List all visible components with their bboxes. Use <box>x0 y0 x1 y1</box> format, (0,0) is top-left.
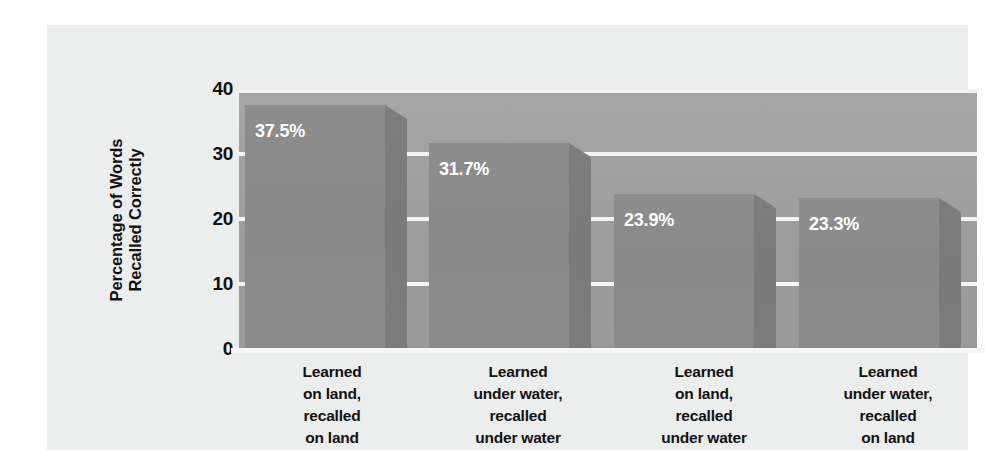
x-label-3-line-2: recalled <box>795 405 981 427</box>
x-label-0-line-0: Learned <box>239 361 425 383</box>
bar-learned-on-land-recalled-on-land[interactable]: 37.5% <box>245 105 385 349</box>
bar-learned-under-water-recalled-under-water[interactable]: 31.7% <box>429 143 569 349</box>
x-label-2-line-0: Learned <box>611 361 797 383</box>
y-axis-tick-labels: 40 30 20 10 0 <box>185 25 233 470</box>
bar-learned-on-land-recalled-under-water[interactable]: 23.9% <box>614 194 754 349</box>
axis-line-zero <box>231 348 985 353</box>
y-tick-40: 40 <box>189 78 233 100</box>
x-label-category-3: Learned under water, recalled on land <box>795 361 981 449</box>
x-label-category-1: Learned under water, recalled under wate… <box>425 361 611 449</box>
x-label-1-line-0: Learned <box>425 361 611 383</box>
bar-value-label: 23.9% <box>624 210 674 231</box>
y-tick-20: 20 <box>189 208 233 230</box>
bar-side-face <box>754 194 776 349</box>
bar-side-face <box>939 198 961 349</box>
x-label-category-2: Learned on land, recalled under water <box>611 361 797 449</box>
bar-value-label: 23.3% <box>809 214 859 235</box>
bar-side-face <box>569 143 591 349</box>
bar-value-label: 31.7% <box>439 159 489 180</box>
y-tick-0: 0 <box>189 338 233 360</box>
bar-value-label: 37.5% <box>255 121 305 142</box>
x-label-1-line-1: under water, <box>425 383 611 405</box>
x-label-1-line-2: recalled <box>425 405 611 427</box>
x-label-2-line-3: under water <box>611 427 797 449</box>
x-label-0-line-1: on land, <box>239 383 425 405</box>
gridline-40 <box>239 89 977 93</box>
x-label-2-line-2: recalled <box>611 405 797 427</box>
y-axis-title-line-2: Recalled Correctly <box>126 139 145 302</box>
y-axis-title: Percentage of Words Recalled Correctly <box>103 85 149 355</box>
x-label-3-line-1: under water, <box>795 383 981 405</box>
bar-learned-under-water-recalled-on-land[interactable]: 23.3% <box>799 198 939 349</box>
y-tick-30: 30 <box>189 143 233 165</box>
x-label-0-line-3: on land <box>239 427 425 449</box>
x-axis-category-labels: Learned on land, recalled on land Learne… <box>239 361 977 470</box>
x-label-category-0: Learned on land, recalled on land <box>239 361 425 449</box>
plot-area: 37.5% 31.7% 23.9% 23.3% <box>239 89 977 349</box>
chart-figure-panel: Percentage of Words Recalled Correctly 4… <box>47 25 968 450</box>
y-axis-title-line-1: Percentage of Words <box>107 139 126 302</box>
bar-side-face <box>385 105 407 349</box>
x-label-2-line-1: on land, <box>611 383 797 405</box>
x-label-3-line-0: Learned <box>795 361 981 383</box>
x-label-0-line-2: recalled <box>239 405 425 427</box>
x-label-1-line-3: under water <box>425 427 611 449</box>
y-tick-10: 10 <box>189 273 233 295</box>
x-label-3-line-3: on land <box>795 427 981 449</box>
